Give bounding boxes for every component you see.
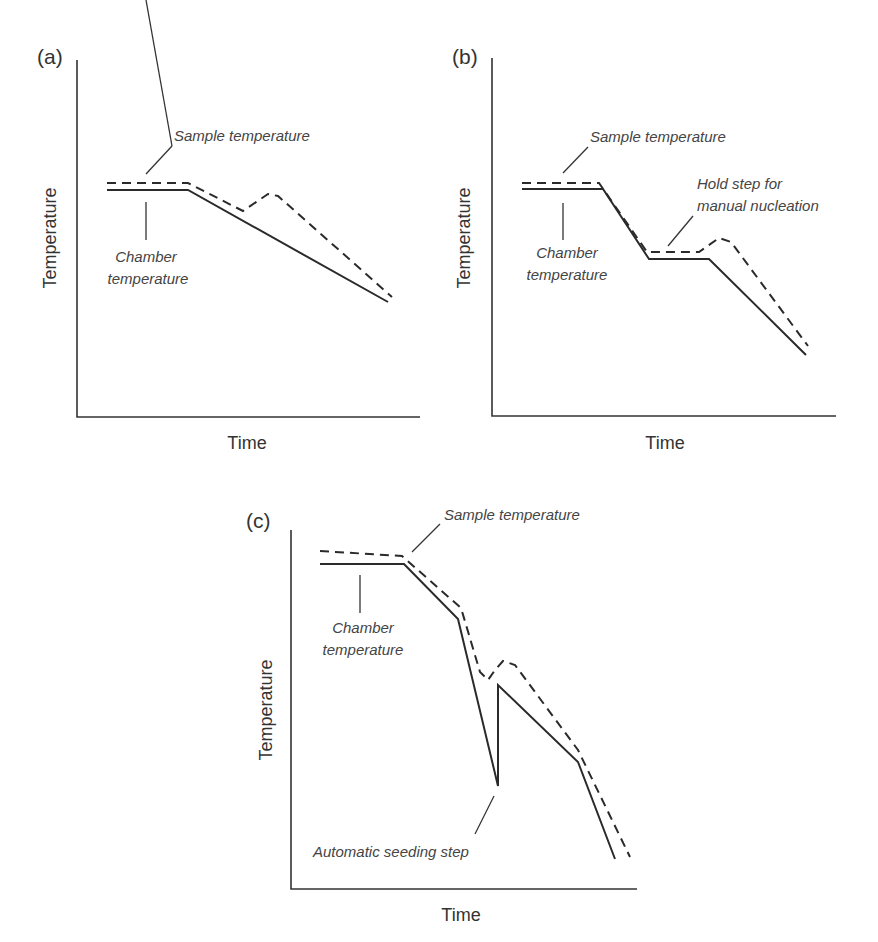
- panel-a-ylabel: Temperature: [40, 187, 60, 288]
- panel-c-chamber-label-1: Chamber: [332, 619, 395, 636]
- panel-c-chamber-label-2: temperature: [323, 641, 404, 658]
- panel-c-sample-leader: [412, 524, 440, 552]
- panel-c-ylabel: Temperature: [256, 659, 276, 760]
- panel-c-seeding-label: Automatic seeding step: [312, 843, 469, 860]
- panel-c-seeding-leader: [475, 796, 494, 834]
- panel-b-chamber-label-1: Chamber: [536, 244, 599, 261]
- panel-b-hold-label-2: manual nucleation: [697, 197, 819, 214]
- panel-a-sample-label: Sample temperature: [174, 127, 310, 144]
- panel-c: (c) Time Temperature Sample temperature …: [246, 506, 637, 925]
- panel-b-sample-label: Sample temperature: [590, 128, 726, 145]
- panel-c-sample-label: Sample temperature: [444, 506, 580, 523]
- panel-b-label: (b): [452, 45, 478, 68]
- panel-a-sample-leader-line: [146, 146, 172, 174]
- panel-b-hold-label-1: Hold step for: [697, 175, 783, 192]
- panel-b-xlabel: Time: [645, 433, 684, 453]
- panel-a-chamber-label-2: temperature: [108, 270, 189, 287]
- panel-b-axes: [492, 58, 836, 416]
- panel-a-xlabel: Time: [227, 433, 266, 453]
- panel-a-label: (a): [37, 45, 63, 68]
- panel-a-sample-leader: [146, 0, 172, 146]
- panel-a-axes: [77, 60, 420, 417]
- panel-b-chamber-label-2: temperature: [527, 266, 608, 283]
- panel-a-chamber-label-1: Chamber: [115, 248, 178, 265]
- panel-b-ylabel: Temperature: [454, 187, 474, 288]
- panel-c-xlabel: Time: [441, 905, 480, 925]
- panel-a: (a) Time Temperature Sample temperature …: [37, 0, 420, 453]
- panel-c-chamber-line: [320, 564, 615, 859]
- panel-c-axes: [291, 530, 637, 889]
- panel-b-sample-leader: [563, 147, 588, 173]
- panel-b-hold-leader: [668, 216, 693, 246]
- figure-canvas: (a) Time Temperature Sample temperature …: [0, 0, 878, 942]
- panel-c-sample-line: [320, 551, 630, 857]
- panel-b: (b) Time Temperature Sample temperature …: [452, 45, 836, 453]
- panel-c-label: (c): [246, 509, 271, 532]
